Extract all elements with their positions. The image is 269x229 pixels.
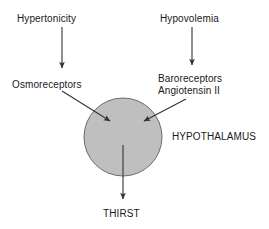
label-hypothalamus: HYPOTHALAMUS bbox=[172, 131, 256, 143]
label-baroreceptors-line1: Baroreceptors bbox=[158, 73, 222, 85]
diagram-canvas bbox=[0, 0, 269, 229]
label-hypertonicity: Hypertonicity bbox=[17, 13, 76, 25]
label-angiotensin-line2: Angiotensin II bbox=[158, 85, 222, 97]
label-thirst: THIRST bbox=[103, 208, 140, 220]
label-osmoreceptors: Osmoreceptors bbox=[12, 79, 82, 91]
label-hypovolemia: Hypovolemia bbox=[160, 13, 219, 25]
thirst-regulation-diagram: Hypertonicity Hypovolemia Osmoreceptors … bbox=[0, 0, 269, 229]
label-baroreceptors-angiotensin: Baroreceptors Angiotensin II bbox=[158, 73, 222, 97]
